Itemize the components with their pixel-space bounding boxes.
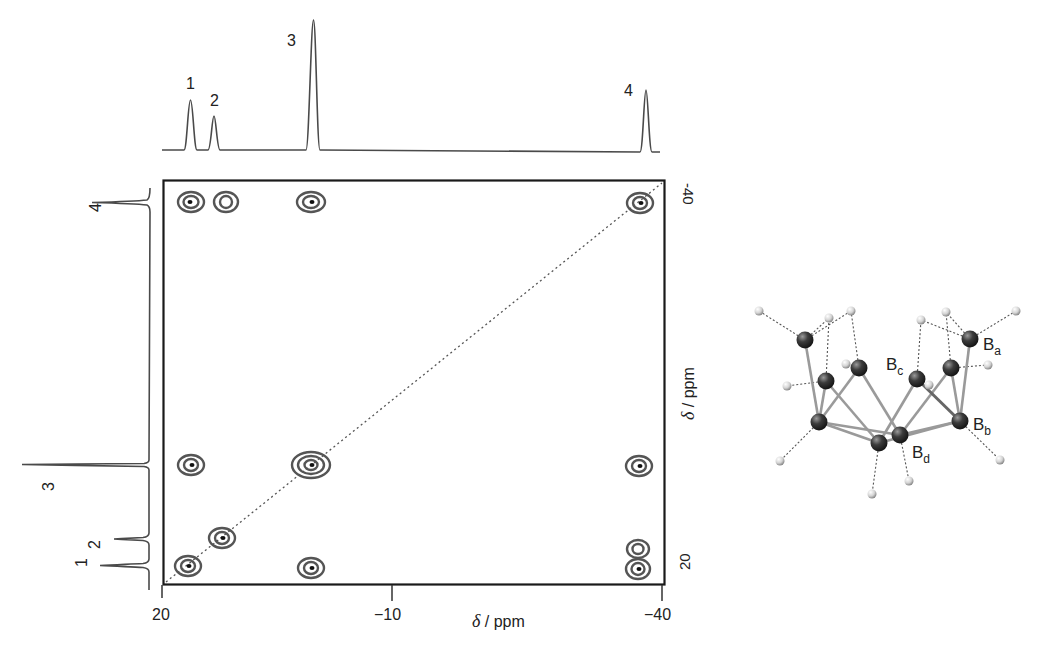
cross-peaks (175, 192, 653, 579)
cross-peak-4-1 (626, 559, 650, 579)
cross-peak-4-2 (627, 540, 649, 558)
y-tick-20: 20 (676, 553, 693, 570)
side-spectrum-trace (22, 188, 150, 590)
cross-peak-2-4 (214, 192, 238, 212)
top-peak-label-2: 2 (210, 92, 219, 109)
plot-frame (164, 181, 665, 585)
molecule-structure: Ba Bc Bb Bd (755, 307, 1021, 499)
y-tick-minus40: -40 (680, 183, 697, 205)
cross-peak-1-1 (175, 556, 201, 576)
cosy-plot: 20 −10 −40 δ / ppm -40 20 δ / ppm (152, 181, 698, 632)
hydrogen-atoms (755, 307, 1021, 499)
top-spectrum: 1 2 3 4 (162, 20, 660, 152)
cross-peak-4-4 (627, 193, 653, 213)
side-peak-label-3: 3 (40, 482, 57, 491)
cross-peak-1-4 (178, 192, 204, 212)
top-spectrum-trace (162, 20, 660, 152)
x-tick-20: 20 (152, 606, 170, 623)
top-peak-label-1: 1 (186, 75, 195, 92)
cross-peak-3-1 (298, 558, 324, 578)
x-tick-minus40: −40 (644, 606, 671, 623)
cross-peak-3-3 (292, 452, 330, 478)
nmr-figure: 1 2 3 4 4 3 2 1 (0, 0, 1048, 650)
side-peak-label-2: 2 (86, 540, 103, 549)
y-axis-label-unit: / ppm (680, 367, 697, 411)
boron-label-a: Ba (983, 335, 1001, 358)
cross-peak-3-4 (297, 192, 325, 212)
x-tick-minus10: −10 (374, 606, 401, 623)
side-peak-label-1: 1 (73, 558, 90, 567)
side-peak-label-4: 4 (87, 203, 104, 212)
diagonal-line (166, 183, 662, 582)
cross-peak-1-3 (178, 455, 204, 475)
top-peak-label-3: 3 (287, 32, 296, 49)
boron-label-c: Bc (886, 355, 903, 378)
x-axis (162, 585, 662, 601)
cross-peak-4-3 (626, 456, 652, 476)
x-axis-label: δ / ppm (472, 611, 525, 631)
x-axis-label-unit: / ppm (480, 613, 524, 630)
boron-label-b: Bb (973, 415, 991, 438)
side-spectrum: 4 3 2 1 (22, 188, 150, 590)
top-peak-label-4: 4 (624, 82, 633, 99)
boron-label-d: Bd (912, 443, 930, 466)
y-axis-label: δ / ppm (678, 367, 698, 420)
cross-peak-2-2 (209, 528, 235, 548)
